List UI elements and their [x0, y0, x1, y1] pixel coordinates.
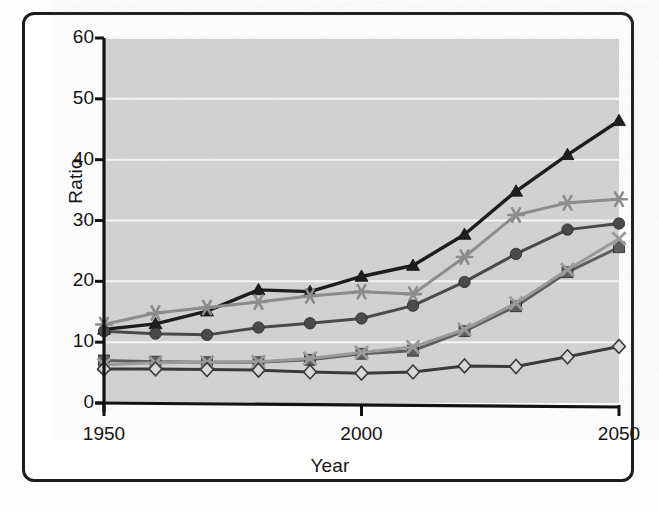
- data-point-circle: [253, 322, 264, 333]
- data-point-circle: [407, 300, 418, 311]
- y-tick-40: 40: [48, 148, 94, 170]
- data-point-circle: [356, 313, 367, 324]
- x-tick-2000: 2000: [322, 423, 402, 445]
- y-tick-20: 20: [48, 269, 94, 291]
- y-tick-30: 30: [48, 209, 94, 231]
- y-tick-10: 10: [48, 330, 94, 352]
- data-point-circle: [613, 218, 624, 229]
- data-point-circle: [459, 276, 470, 287]
- data-point-circle: [304, 318, 315, 329]
- data-point-circle: [562, 224, 573, 235]
- x-axis-title: Year: [230, 455, 430, 477]
- data-point-circle: [201, 329, 212, 340]
- y-tick-50: 50: [48, 87, 94, 109]
- figure-container: Ratio Year 0102030405060 195020002050: [0, 0, 659, 513]
- x-tick-1950: 1950: [64, 423, 144, 445]
- y-tick-0: 0: [48, 391, 94, 413]
- data-point-circle: [150, 328, 161, 339]
- y-tick-60: 60: [48, 26, 94, 48]
- x-tick-2050: 2050: [579, 423, 659, 445]
- data-point-circle: [510, 248, 521, 259]
